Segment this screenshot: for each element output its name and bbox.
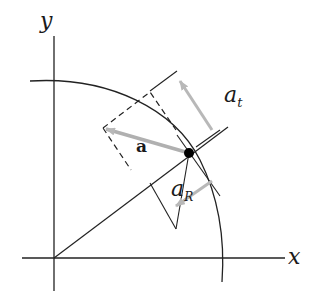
- a_R-subscript: R: [184, 190, 193, 204]
- circular-path-arc: [30, 81, 223, 282]
- y-axis-label: y: [40, 8, 52, 33]
- tangential-acceleration-label: at: [224, 82, 242, 110]
- x-axis-label: x: [288, 244, 300, 269]
- a_t-top-tick: [150, 71, 177, 91]
- particle-point: [184, 148, 194, 158]
- radial-acceleration-label: aR: [171, 176, 193, 204]
- a_t-main: a: [224, 82, 237, 107]
- acceleration-vector-a-arrow: [106, 129, 189, 153]
- tangential-component-a_t-arrow: [180, 81, 212, 130]
- a_R-main: a: [171, 176, 184, 201]
- a_t-subscript: t: [237, 95, 242, 110]
- a_t-bottom-tick: [196, 130, 220, 147]
- acceleration-components-diagram: [0, 0, 316, 300]
- acceleration-label: a: [136, 136, 147, 156]
